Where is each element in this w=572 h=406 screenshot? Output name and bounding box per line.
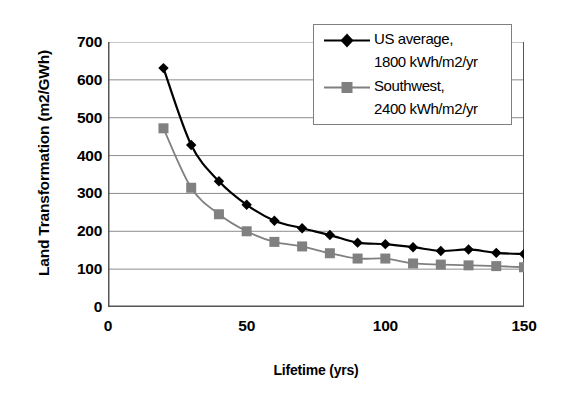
data-point-diamond (436, 246, 446, 256)
x-axis-tick-labels: 050100150 (0, 318, 572, 340)
chart-legend: US average, 1800 kWh/m2/yr Southwest, 24… (313, 24, 512, 125)
data-point-diamond (380, 239, 390, 249)
data-point-square (269, 237, 279, 247)
data-point-diamond (463, 244, 473, 254)
legend-marker-diamond-icon (322, 28, 372, 53)
legend-label-series1-line1: US average, (374, 30, 453, 47)
data-point-square (186, 183, 196, 193)
data-point-square (158, 123, 168, 133)
data-point-square (464, 260, 474, 270)
x-tick-label: 0 (78, 318, 138, 334)
legend-item-series1[interactable]: US average, (314, 28, 513, 53)
data-point-diamond (186, 140, 196, 150)
data-point-square (214, 209, 224, 219)
legend-label-series2-line1: Southwest, (374, 77, 444, 94)
data-point-square (491, 261, 501, 271)
y-tick-label: 0 (50, 299, 102, 315)
x-axis-title: Lifetime (yrs) (108, 362, 524, 378)
y-axis-tick-labels: 0100200300400500600700 (46, 0, 102, 406)
y-tick-label: 400 (50, 148, 102, 164)
data-point-square (325, 248, 335, 258)
y-tick-label: 600 (50, 72, 102, 88)
legend-label-series1-line2: 1800 kWh/m2/yr (374, 53, 478, 70)
legend-item-series2-line2: 2400 kWh/m2/yr (314, 98, 513, 123)
data-point-diamond (269, 215, 279, 225)
data-point-diamond (297, 223, 307, 233)
chart-figure: Land Transformation (m2/GWh) 01002003004… (0, 0, 572, 406)
legend-label-series2-line2: 2400 kWh/m2/yr (374, 100, 478, 117)
x-tick-label: 100 (355, 318, 415, 334)
y-tick-label: 200 (50, 223, 102, 239)
data-point-diamond (158, 63, 168, 73)
data-point-diamond (352, 237, 362, 247)
legend-marker-square-icon (322, 75, 372, 100)
x-tick-label: 50 (217, 318, 277, 334)
data-point-square (408, 258, 418, 268)
y-tick-label: 300 (50, 185, 102, 201)
data-point-diamond (519, 249, 524, 259)
data-point-square (436, 260, 446, 270)
data-point-square (519, 262, 524, 272)
data-point-square (297, 241, 307, 251)
data-point-square (242, 226, 252, 236)
data-point-diamond (408, 242, 418, 252)
data-point-diamond (491, 248, 501, 258)
legend-item-series1-line2: 1800 kWh/m2/yr (314, 51, 513, 76)
data-point-square (380, 254, 390, 264)
legend-item-series2[interactable]: Southwest, (314, 75, 513, 100)
y-tick-label: 100 (50, 261, 102, 277)
x-tick-label: 150 (494, 318, 554, 334)
y-tick-label: 700 (50, 34, 102, 50)
y-tick-label: 500 (50, 110, 102, 126)
data-point-square (353, 254, 363, 264)
